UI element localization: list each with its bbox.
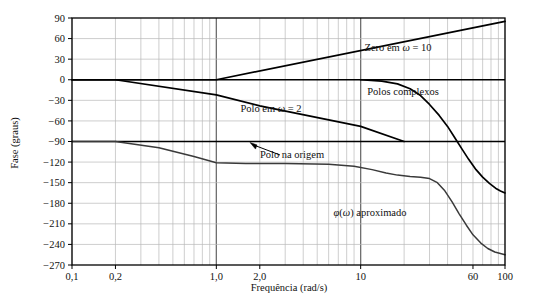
x-tick-label: 1,0 [210,271,223,282]
y-tick-label: −240 [43,239,65,250]
y-axis-title: Fase (graus) [9,117,21,169]
y-tick-label: −120 [43,157,65,168]
x-tick-label: 100 [497,271,513,282]
x-axis-title: Frequência (rad/s) [251,282,328,294]
y-tick-label: 60 [55,33,66,44]
y-tick-label: −30 [49,95,65,106]
y-tick-label: −150 [43,177,65,188]
y-tick-label: −180 [43,198,65,209]
y-tick-label: 0 [60,74,65,85]
x-tick-label: 10 [355,271,366,282]
y-tick-label: −90 [49,136,65,147]
pole-w2-label: Polo em ω = 2 [240,103,301,114]
zero-label: Zero em ω = 10 [365,42,432,53]
chart-canvas: 0,10,21,02,01060100 9060300−30−60−90−120… [0,0,535,306]
complex-poles-label: Polos complexos [367,86,438,97]
bode-phase-chart: 0,10,21,02,01060100 9060300−30−60−90−120… [0,0,535,306]
y-tick-label: −60 [49,116,65,127]
x-tick-label: 2,0 [253,271,266,282]
y-tick-label: −270 [43,260,65,271]
x-tick-label: 0,2 [109,271,122,282]
x-tick-label: 0,1 [65,271,78,282]
x-tick-label: 60 [468,271,479,282]
phi-approx-label: φ(ω) aproximado [333,207,406,219]
y-tick-label: −210 [43,218,65,229]
y-tick-label: 30 [55,54,66,65]
y-tick-label: 90 [55,13,66,24]
